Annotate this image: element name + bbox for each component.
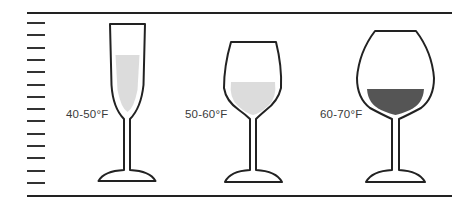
red-wine-glass-icon <box>357 31 434 182</box>
flute-temperature-label: 40-50°F <box>66 108 108 120</box>
temperature-scale-ticks <box>27 23 45 183</box>
flute-glass-icon <box>99 24 156 181</box>
white-wine-glass-icon <box>224 42 282 182</box>
flute-fill <box>116 55 140 112</box>
red-wine-temperature-label: 60-70°F <box>320 108 362 120</box>
wine-temperature-diagram <box>0 0 471 207</box>
white-wine-temperature-label: 50-60°F <box>185 108 227 120</box>
